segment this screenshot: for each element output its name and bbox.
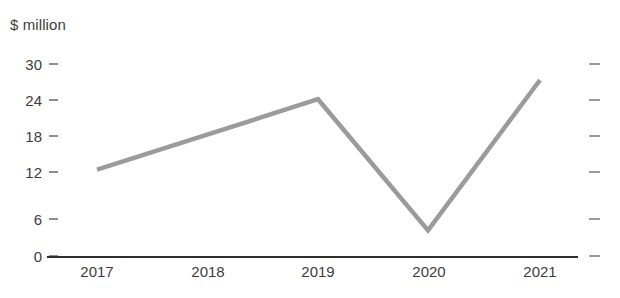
y-axis-tick-label: 12 xyxy=(25,165,42,180)
x-axis-label-2020: 2020 xyxy=(384,264,474,281)
y-axis-tick-dash-icon xyxy=(49,63,58,65)
right-axis-tick-6 xyxy=(589,218,600,220)
x-axis-label-2017: 2017 xyxy=(52,264,142,281)
y-axis-tick-label: 18 xyxy=(25,129,42,144)
y-axis-tick-dash-icon xyxy=(49,171,58,173)
y-axis-tick-dash-icon xyxy=(49,135,58,137)
x-axis-label-2019: 2019 xyxy=(273,264,363,281)
right-axis-tick-24 xyxy=(589,99,600,101)
data-series-line xyxy=(97,80,540,230)
y-axis-tick-12: 12 xyxy=(0,162,58,182)
y-axis-tick-18: 18 xyxy=(0,126,58,146)
y-axis-tick-label: 0 xyxy=(34,249,42,264)
y-axis-tick-30: 30 xyxy=(0,54,58,74)
right-axis-tick-0 xyxy=(589,255,600,257)
x-axis-line xyxy=(47,256,578,258)
plot-area xyxy=(0,0,620,298)
right-axis-tick-30 xyxy=(589,63,600,65)
y-axis-tick-label: 24 xyxy=(25,93,42,108)
y-axis-tick-dash-icon xyxy=(49,218,58,220)
y-axis-tick-dash-icon xyxy=(49,99,58,101)
y-axis-tick-24: 24 xyxy=(0,90,58,110)
right-axis-tick-18 xyxy=(589,135,600,137)
y-axis-tick-label: 6 xyxy=(34,212,42,227)
x-axis-label-2018: 2018 xyxy=(163,264,253,281)
y-axis-tick-label: 30 xyxy=(25,57,42,72)
y-axis-unit-label: $ million xyxy=(10,16,66,33)
y-axis-tick-6: 6 xyxy=(0,209,58,229)
right-axis-tick-12 xyxy=(589,171,600,173)
x-axis-label-2021: 2021 xyxy=(495,264,585,281)
line-chart: $ million 30 24 18 12 6 0 2017 2018 2019… xyxy=(0,0,620,298)
